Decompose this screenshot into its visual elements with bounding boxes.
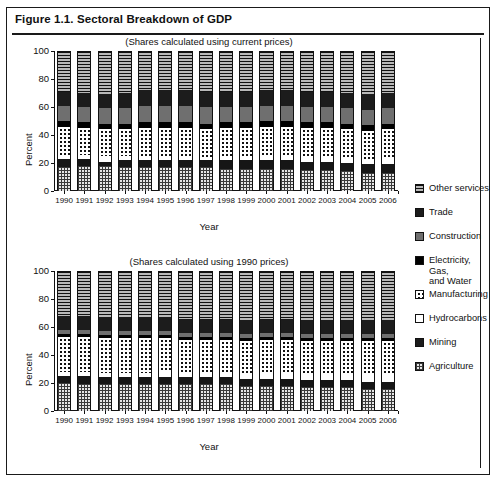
bar-segment[interactable] xyxy=(259,271,273,319)
bar-segment[interactable] xyxy=(199,92,213,107)
bar-segment[interactable] xyxy=(118,124,132,130)
stacked-bar[interactable] xyxy=(98,51,112,191)
bar-segment[interactable] xyxy=(98,51,112,94)
bar-segment[interactable] xyxy=(118,93,132,108)
bar-segment[interactable] xyxy=(340,334,354,338)
bar-segment[interactable] xyxy=(320,338,334,341)
bar-segment[interactable] xyxy=(57,106,71,121)
bar-segment[interactable] xyxy=(259,379,273,386)
bar-segment[interactable] xyxy=(320,320,334,334)
bar-segment[interactable] xyxy=(300,107,314,122)
bar-segment[interactable] xyxy=(98,271,112,317)
bar-segment[interactable] xyxy=(77,128,91,155)
bar-segment[interactable] xyxy=(239,92,253,107)
bar-segment[interactable] xyxy=(300,92,314,107)
bar-segment[interactable] xyxy=(57,159,71,167)
bar-segment[interactable] xyxy=(320,375,334,381)
bar-segment[interactable] xyxy=(280,333,294,337)
bar-segment[interactable] xyxy=(320,157,334,161)
bar-segment[interactable] xyxy=(138,90,152,105)
bar-segment[interactable] xyxy=(98,317,112,331)
bar-segment[interactable] xyxy=(340,171,354,191)
bar-segment[interactable] xyxy=(118,377,132,384)
bar-segment[interactable] xyxy=(300,170,314,191)
bar-segment[interactable] xyxy=(98,166,112,191)
stacked-bar[interactable] xyxy=(199,51,213,191)
bar-segment[interactable] xyxy=(259,337,273,340)
bar-segment[interactable] xyxy=(239,320,253,334)
bar-segment[interactable] xyxy=(77,372,91,376)
bar-segment[interactable] xyxy=(340,341,354,375)
bar-segment[interactable] xyxy=(178,337,192,340)
bar-segment[interactable] xyxy=(199,373,213,377)
bar-segment[interactable] xyxy=(118,373,132,377)
bar-segment[interactable] xyxy=(300,380,314,387)
bar-segment[interactable] xyxy=(77,155,91,159)
bar-segment[interactable] xyxy=(381,389,395,411)
bar-segment[interactable] xyxy=(340,124,354,130)
bar-segment[interactable] xyxy=(280,169,294,191)
bar-segment[interactable] xyxy=(259,51,273,90)
bar-segment[interactable] xyxy=(381,382,395,389)
bar-segment[interactable] xyxy=(300,122,314,128)
bar-segment[interactable] xyxy=(300,387,314,411)
bar-segment[interactable] xyxy=(98,94,112,108)
bar-segment[interactable] xyxy=(381,334,395,338)
bar-segment[interactable] xyxy=(340,320,354,334)
bar-segment[interactable] xyxy=(77,334,91,337)
bar-segment[interactable] xyxy=(340,129,354,157)
bar-segment[interactable] xyxy=(259,340,273,374)
bar-segment[interactable] xyxy=(259,160,273,168)
legend-item[interactable]: Mining xyxy=(415,337,456,348)
bar-segment[interactable] xyxy=(361,131,375,159)
bar-segment[interactable] xyxy=(219,340,233,374)
bar-segment[interactable] xyxy=(138,377,152,384)
bar-segment[interactable] xyxy=(320,107,334,122)
bar-segment[interactable] xyxy=(57,383,71,411)
bar-segment[interactable] xyxy=(118,338,132,373)
bar-segment[interactable] xyxy=(199,107,213,124)
bar-segment[interactable] xyxy=(320,162,334,170)
bar-segment[interactable] xyxy=(280,271,294,319)
bar-segment[interactable] xyxy=(219,107,233,122)
bar-segment[interactable] xyxy=(361,94,375,109)
bar-segment[interactable] xyxy=(239,107,253,122)
bar-segment[interactable] xyxy=(381,164,395,172)
bar-segment[interactable] xyxy=(361,389,375,411)
legend-item[interactable]: Agriculture xyxy=(415,361,473,372)
bar-segment[interactable] xyxy=(300,128,314,157)
bar-segment[interactable] xyxy=(138,156,152,160)
bar-segment[interactable] xyxy=(158,122,172,128)
bar-segment[interactable] xyxy=(118,384,132,411)
bar-segment[interactable] xyxy=(118,51,132,93)
bar-segment[interactable] xyxy=(77,51,91,93)
bar-segment[interactable] xyxy=(138,51,152,90)
bar-segment[interactable] xyxy=(178,340,192,374)
bar-segment[interactable] xyxy=(178,319,192,333)
bar-segment[interactable] xyxy=(57,316,71,330)
bar-segment[interactable] xyxy=(219,169,233,191)
bar-segment[interactable] xyxy=(280,373,294,379)
bar-segment[interactable] xyxy=(158,338,172,372)
bar-segment[interactable] xyxy=(98,377,112,384)
bar-segment[interactable] xyxy=(219,157,233,160)
bar-segment[interactable] xyxy=(77,159,91,166)
bar-segment[interactable] xyxy=(381,338,395,341)
bar-segment[interactable] xyxy=(118,160,132,167)
bar-segment[interactable] xyxy=(320,51,334,92)
bar-segment[interactable] xyxy=(178,271,192,319)
bar-segment[interactable] xyxy=(199,333,213,337)
bar-segment[interactable] xyxy=(158,331,172,335)
bar-segment[interactable] xyxy=(77,271,91,316)
bar-segment[interactable] xyxy=(340,51,354,93)
stacked-bar[interactable] xyxy=(259,51,273,191)
bar-segment[interactable] xyxy=(300,51,314,92)
stacked-bar[interactable] xyxy=(300,271,314,411)
stacked-bar[interactable] xyxy=(158,271,172,411)
stacked-bar[interactable] xyxy=(239,271,253,411)
stacked-bar[interactable] xyxy=(361,271,375,411)
legend-item[interactable]: Construction xyxy=(415,231,481,242)
stacked-bar[interactable] xyxy=(280,271,294,411)
bar-segment[interactable] xyxy=(361,51,375,94)
bar-segment[interactable] xyxy=(98,373,112,377)
